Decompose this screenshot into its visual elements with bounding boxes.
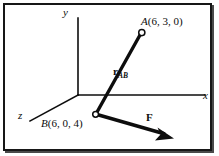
- point-b-coordinates: (6, 0, 4): [48, 117, 83, 129]
- figure-drawing-canvas: [0, 0, 219, 156]
- force-vector-arrowhead: [155, 128, 174, 141]
- force-vector-line: [97, 115, 165, 135]
- vector-diagram-figure: y x z A(6, 3, 0) B(6, 0, 4) rAB F: [0, 0, 219, 156]
- point-b-name: B: [41, 117, 48, 129]
- x-axis-label: x: [203, 90, 208, 101]
- position-vector-ab-label: rAB: [113, 66, 128, 80]
- point-a-coordinates: (6, 3, 0): [148, 15, 183, 27]
- point-a-label: A(6, 3, 0): [141, 16, 183, 27]
- point-b-label: B(6, 0, 4): [41, 118, 83, 129]
- force-vector-label: F: [146, 112, 153, 123]
- force-vector-graphic: [97, 115, 174, 141]
- position-vector-ab-subscript: AB: [118, 71, 128, 80]
- point-a-name: A: [141, 15, 148, 27]
- y-axis-label: y: [63, 7, 68, 18]
- point-b-marker: [93, 111, 99, 117]
- point-a-marker: [139, 29, 145, 35]
- z-axis-label: z: [18, 110, 22, 121]
